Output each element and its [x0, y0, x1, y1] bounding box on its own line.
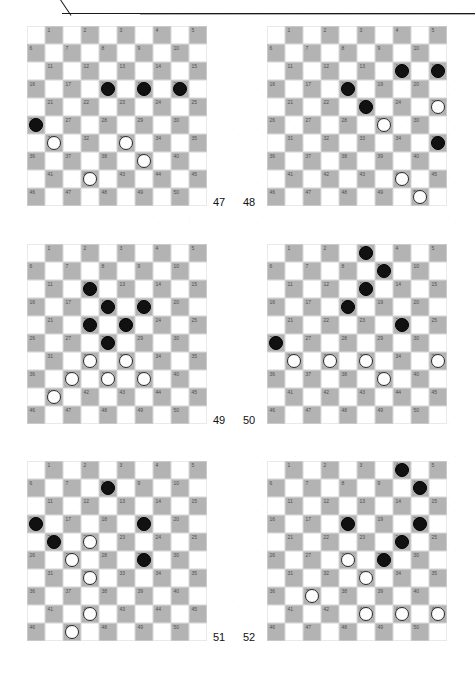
light-square[interactable]: [153, 80, 171, 98]
light-square[interactable]: [99, 352, 117, 370]
white-piece-39[interactable]: [137, 154, 151, 168]
light-square[interactable]: [135, 461, 153, 479]
square-22[interactable]: 22: [321, 98, 339, 116]
square-12[interactable]: 12: [81, 280, 99, 298]
light-square[interactable]: [27, 605, 45, 623]
light-square[interactable]: [171, 98, 189, 116]
square-43[interactable]: 43: [117, 388, 135, 406]
square-19[interactable]: 19: [135, 515, 153, 533]
white-piece-31[interactable]: [287, 354, 301, 368]
square-19[interactable]: 19: [135, 80, 153, 98]
square-8[interactable]: 8: [339, 262, 357, 280]
square-12[interactable]: 12: [81, 62, 99, 80]
light-square[interactable]: [411, 352, 429, 370]
black-piece-18[interactable]: [101, 82, 115, 96]
square-38[interactable]: 38: [99, 587, 117, 605]
light-square[interactable]: [285, 188, 303, 206]
light-square[interactable]: [267, 134, 285, 152]
square-18[interactable]: 18: [99, 298, 117, 316]
square-1[interactable]: 1: [285, 26, 303, 44]
light-square[interactable]: [285, 587, 303, 605]
light-square[interactable]: [321, 406, 339, 424]
light-square[interactable]: [99, 569, 117, 587]
square-26[interactable]: 26: [27, 116, 45, 134]
square-18[interactable]: 18: [339, 298, 357, 316]
light-square[interactable]: [63, 497, 81, 515]
square-39[interactable]: 39: [135, 587, 153, 605]
light-square[interactable]: [267, 316, 285, 334]
square-50[interactable]: 50: [171, 623, 189, 641]
square-15[interactable]: 15: [189, 62, 207, 80]
light-square[interactable]: [81, 44, 99, 62]
square-32[interactable]: 32: [321, 569, 339, 587]
square-43[interactable]: 43: [357, 388, 375, 406]
light-square[interactable]: [135, 244, 153, 262]
light-square[interactable]: [429, 262, 447, 280]
light-square[interactable]: [411, 316, 429, 334]
black-piece-28[interactable]: [101, 336, 115, 350]
square-9[interactable]: 9: [135, 479, 153, 497]
light-square[interactable]: [99, 388, 117, 406]
square-35[interactable]: 35: [189, 569, 207, 587]
square-41[interactable]: 41: [45, 388, 63, 406]
square-21[interactable]: 21: [45, 98, 63, 116]
square-47[interactable]: 47: [303, 188, 321, 206]
light-square[interactable]: [285, 262, 303, 280]
white-piece-44[interactable]: [395, 172, 409, 186]
light-square[interactable]: [303, 280, 321, 298]
light-square[interactable]: [375, 316, 393, 334]
light-square[interactable]: [375, 26, 393, 44]
square-29[interactable]: 29: [375, 551, 393, 569]
light-square[interactable]: [339, 98, 357, 116]
light-square[interactable]: [99, 62, 117, 80]
light-square[interactable]: [267, 388, 285, 406]
light-square[interactable]: [303, 244, 321, 262]
black-piece-13[interactable]: [359, 282, 373, 296]
square-44[interactable]: 44: [153, 170, 171, 188]
square-34[interactable]: 34: [153, 134, 171, 152]
square-48[interactable]: 48: [339, 623, 357, 641]
square-37[interactable]: 37: [63, 370, 81, 388]
square-34[interactable]: 34: [153, 352, 171, 370]
black-piece-18[interactable]: [341, 300, 355, 314]
square-33[interactable]: 33: [357, 569, 375, 587]
square-38[interactable]: 38: [339, 370, 357, 388]
light-square[interactable]: [27, 533, 45, 551]
light-square[interactable]: [267, 605, 285, 623]
square-10[interactable]: 10: [171, 479, 189, 497]
light-square[interactable]: [153, 152, 171, 170]
square-43[interactable]: 43: [117, 605, 135, 623]
square-12[interactable]: 12: [321, 62, 339, 80]
black-piece-10[interactable]: [413, 481, 427, 495]
light-square[interactable]: [357, 623, 375, 641]
white-piece-31[interactable]: [47, 136, 61, 150]
light-square[interactable]: [27, 280, 45, 298]
square-42[interactable]: 42: [81, 170, 99, 188]
light-square[interactable]: [153, 551, 171, 569]
square-15[interactable]: 15: [189, 280, 207, 298]
square-40[interactable]: 40: [171, 587, 189, 605]
light-square[interactable]: [189, 551, 207, 569]
light-square[interactable]: [99, 605, 117, 623]
square-4[interactable]: 4: [393, 461, 411, 479]
light-square[interactable]: [189, 334, 207, 352]
light-square[interactable]: [321, 188, 339, 206]
light-square[interactable]: [135, 98, 153, 116]
black-piece-20[interactable]: [173, 82, 187, 96]
square-34[interactable]: 34: [393, 352, 411, 370]
light-square[interactable]: [27, 170, 45, 188]
light-square[interactable]: [357, 262, 375, 280]
light-square[interactable]: [63, 533, 81, 551]
white-piece-33[interactable]: [119, 136, 133, 150]
square-46[interactable]: 46: [267, 188, 285, 206]
square-34[interactable]: 34: [153, 569, 171, 587]
light-square[interactable]: [411, 244, 429, 262]
light-square[interactable]: [171, 316, 189, 334]
light-square[interactable]: [285, 80, 303, 98]
light-square[interactable]: [393, 80, 411, 98]
light-square[interactable]: [135, 170, 153, 188]
square-35[interactable]: 35: [429, 134, 447, 152]
light-square[interactable]: [321, 116, 339, 134]
black-piece-23[interactable]: [359, 100, 373, 114]
square-46[interactable]: 46: [27, 188, 45, 206]
